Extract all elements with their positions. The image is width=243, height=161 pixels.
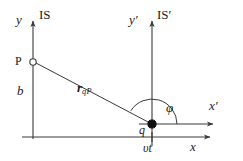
displacement-vt-label: υt	[143, 142, 152, 154]
r-subscript: qP	[82, 87, 92, 96]
physics-diagram-figure: y IS y′ IS′ P b rqP φ q x′ υt x	[0, 0, 243, 161]
impact-parameter-label: b	[17, 84, 24, 97]
point-p-marker	[30, 59, 36, 65]
y-prime-axis-label: y′	[129, 13, 138, 26]
r-qp-vector-label: rqP	[77, 81, 92, 97]
frame-is-prime-label: IS′	[157, 8, 171, 21]
charge-q-label: q	[139, 124, 145, 136]
y-axis-label: y	[16, 13, 22, 26]
x-prime-axis-label: x′	[209, 99, 218, 112]
point-p-label: P	[15, 55, 22, 67]
phi-angle-label: φ	[166, 101, 173, 114]
charge-q-marker	[148, 120, 156, 128]
x-axis-label: x	[190, 140, 196, 153]
frame-is-label: IS	[39, 8, 51, 21]
r-qp-vector-line	[36, 63, 150, 123]
diagram-canvas	[0, 0, 243, 161]
